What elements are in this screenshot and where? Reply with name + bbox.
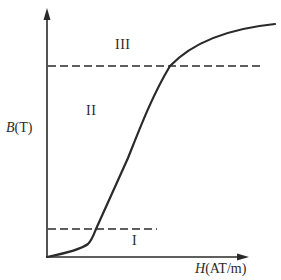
region-label-iii: III: [115, 38, 131, 52]
y-axis-arrow-icon: [44, 8, 51, 20]
diagram-graphics: [0, 0, 281, 280]
magnetization-curve: [47, 24, 275, 257]
y-axis-unit: (T): [15, 120, 33, 135]
bh-curve-diagram: III II I B(T) H(AT/m): [0, 0, 281, 280]
region-label-ii: II: [86, 104, 96, 118]
x-axis-label: H(AT/m): [195, 262, 246, 276]
x-axis-symbol: H: [195, 261, 205, 276]
y-axis-symbol: B: [6, 120, 15, 135]
y-axis-label: B(T): [6, 121, 32, 135]
region-label-i: I: [132, 234, 137, 248]
x-axis-unit: (AT/m): [205, 261, 246, 276]
x-axis-arrow-icon: [237, 254, 249, 261]
